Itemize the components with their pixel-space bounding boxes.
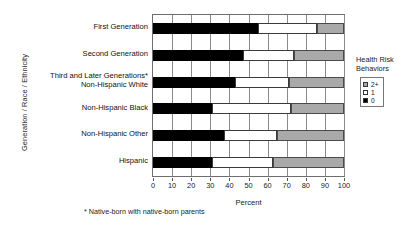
category-label: Third and Later Generations*Non-Hispanic… [18, 72, 148, 89]
x-axis-ticks: 0102030405060708090100 [152, 178, 345, 190]
bar-segment-2plus [291, 103, 344, 114]
table-row [153, 50, 344, 61]
footnote: * Native-born with native-born parents [84, 207, 205, 216]
table-row [153, 23, 344, 34]
category-label-line: Non-Hispanic Black [18, 104, 148, 113]
bar-segment-0 [153, 23, 258, 34]
legend-title: Health Risk Behaviors [356, 56, 416, 73]
bar-segment-1 [243, 50, 295, 61]
legend-item[interactable]: 1 [363, 88, 379, 96]
table-row [153, 103, 344, 114]
legend-swatch-icon [363, 90, 368, 95]
legend-swatch-icon [363, 98, 368, 103]
legend-item[interactable]: 0 [363, 96, 379, 104]
category-label: Non-Hispanic Black [18, 104, 148, 113]
category-label: Non-Hispanic Other [18, 130, 148, 139]
bar-segment-0 [153, 103, 212, 114]
bar-segment-1 [212, 103, 290, 114]
x-axis-title: Percent [152, 198, 345, 207]
category-label-line: Non-Hispanic White [18, 81, 148, 90]
category-label: Second Generation [18, 50, 148, 59]
legend-box: 2+10 [360, 77, 384, 107]
bar-segment-2plus [289, 77, 344, 88]
x-tick-label: 100 [332, 181, 356, 190]
stacked-bar-chart: Generation / Race / Ethnicity First Gene… [0, 0, 420, 226]
bar-segment-2plus [273, 157, 344, 168]
legend-label: 0 [371, 97, 375, 104]
bar-segment-1 [212, 157, 273, 168]
category-axis-labels: First GenerationSecond GenerationThird a… [18, 14, 148, 177]
table-row [153, 77, 344, 88]
category-label-line: Second Generation [18, 50, 148, 59]
table-row [153, 157, 344, 168]
bar-segment-0 [153, 157, 212, 168]
legend-swatch-icon [363, 82, 368, 87]
bar-segment-0 [153, 50, 243, 61]
plot-area [152, 14, 345, 177]
bar-segment-2plus [294, 50, 344, 61]
legend-label: 2+ [371, 81, 379, 88]
bar-segment-1 [235, 77, 288, 88]
legend-label: 1 [371, 89, 375, 96]
gridline [344, 15, 345, 176]
category-label: First Generation [18, 23, 148, 32]
legend: Health Risk Behaviors 2+10 [356, 56, 418, 107]
category-label: Hispanic [18, 157, 148, 166]
bar-segment-1 [224, 130, 277, 141]
legend-item[interactable]: 2+ [363, 80, 379, 88]
category-label-line: Non-Hispanic Other [18, 130, 148, 139]
bar-segment-0 [153, 77, 235, 88]
bar-segment-1 [258, 23, 317, 34]
category-label-line: First Generation [18, 23, 148, 32]
category-label-line: Hispanic [18, 157, 148, 166]
bar-series-group [153, 15, 344, 176]
bar-segment-0 [153, 130, 224, 141]
bar-segment-2plus [317, 23, 344, 34]
table-row [153, 130, 344, 141]
bar-segment-2plus [277, 130, 344, 141]
